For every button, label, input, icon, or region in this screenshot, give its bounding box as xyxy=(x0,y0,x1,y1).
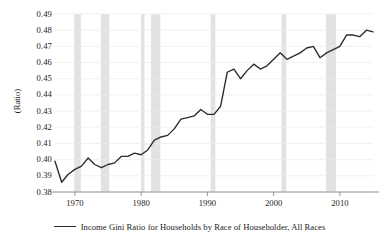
x-axis-tick-label: 1980 xyxy=(133,198,150,208)
legend-label: Income Gini Ratio for Households by Race… xyxy=(81,222,326,232)
x-axis-tick-label: 1970 xyxy=(66,198,83,208)
x-axis-tick-label: 2000 xyxy=(265,198,282,208)
legend-line-swatch xyxy=(54,226,76,227)
x-axis-tick-label: 2010 xyxy=(331,198,348,208)
chart-canvas xyxy=(0,0,379,241)
y-axis-tick-label: 0.47 xyxy=(6,42,52,51)
axis-lines xyxy=(52,192,379,196)
recession-bands xyxy=(74,14,336,192)
y-axis-tick-labels: 0.490.480.470.460.450.440.430.420.410.40… xyxy=(0,0,52,241)
chart-legend: Income Gini Ratio for Households by Race… xyxy=(0,221,379,232)
y-axis-title: (Ratio) xyxy=(12,71,22,131)
y-axis-tick-label: 0.40 xyxy=(6,155,52,164)
y-axis-tick-label: 0.49 xyxy=(6,10,52,19)
y-axis-tick-label: 0.41 xyxy=(6,139,52,148)
y-axis-tick-label: 0.48 xyxy=(6,26,52,35)
y-axis-tick-label: 0.38 xyxy=(6,188,52,197)
y-axis-tick-label: 0.46 xyxy=(6,58,52,67)
y-axis-tick-label: 0.39 xyxy=(6,171,52,180)
x-axis-tick-label: 1990 xyxy=(199,198,216,208)
chart-figure: 0.490.480.470.460.450.440.430.420.410.40… xyxy=(0,0,379,241)
